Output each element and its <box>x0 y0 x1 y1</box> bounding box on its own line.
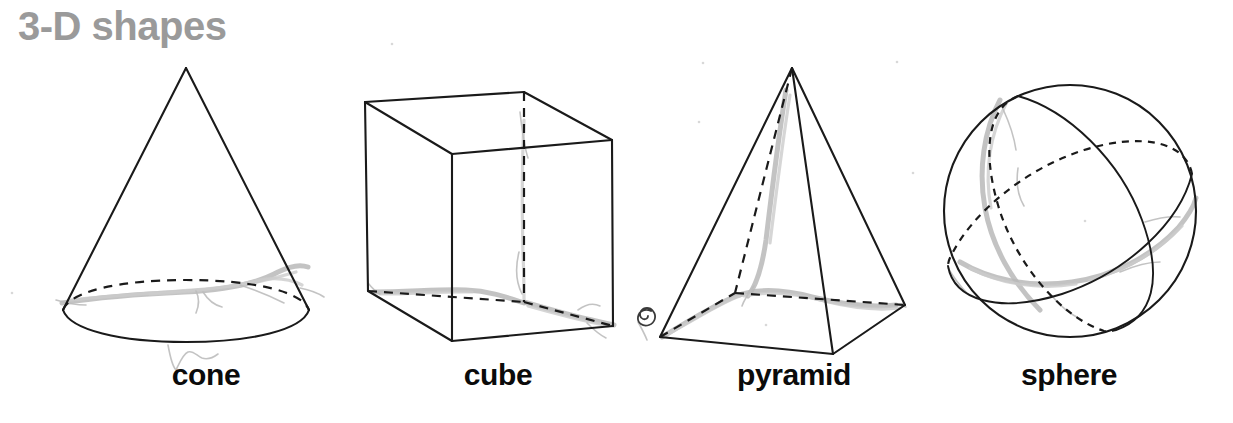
shape-label-pyramid: pyramid <box>737 360 851 390</box>
paper-speck <box>912 172 915 175</box>
shape-label-sphere: sphere <box>1021 360 1117 390</box>
paper-speck <box>1084 220 1087 223</box>
shape-pyramid <box>638 68 906 354</box>
paper-speck <box>896 61 899 64</box>
paper-speck <box>11 292 14 295</box>
shape-cube <box>365 92 647 341</box>
shape-label-cube: cube <box>464 360 532 390</box>
shape-label-cone: cone <box>172 360 240 390</box>
poster-page: 3-D shapes <box>0 0 1233 423</box>
shape-cone <box>56 68 324 370</box>
paper-speck <box>698 121 701 124</box>
shape-sphere <box>944 85 1196 337</box>
paper-speck <box>702 62 705 65</box>
paper-speck <box>765 324 768 327</box>
paper-speck <box>391 43 394 46</box>
